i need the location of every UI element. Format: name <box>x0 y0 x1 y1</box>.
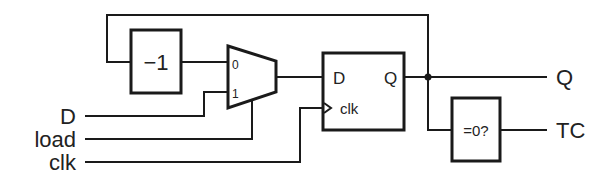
mux-input1-label: 1 <box>232 87 239 101</box>
flipflop-block: D Q clk <box>323 53 404 130</box>
counter-schematic: −1 0 1 D load clk D Q clk Q =0? TC <box>0 0 616 183</box>
flipflop-q-label: Q <box>384 69 397 88</box>
output-q-label: Q <box>556 65 573 90</box>
input-load-label: load <box>34 127 76 152</box>
decrement-block: −1 <box>131 30 181 93</box>
zero-detect-label: =0? <box>463 122 488 139</box>
mux-block: 0 1 <box>228 46 276 108</box>
input-d-wire <box>85 92 228 116</box>
flipflop-d-label: D <box>333 69 345 88</box>
decrement-label: −1 <box>143 50 168 75</box>
zero-detect-block: =0? <box>452 98 500 161</box>
output-tc-label: TC <box>556 118 585 143</box>
input-d-label: D <box>60 104 76 129</box>
input-clk-label: clk <box>49 150 77 175</box>
zero-detect-input-wire <box>428 77 452 130</box>
flipflop-clk-label: clk <box>340 100 359 117</box>
flipflop-box <box>323 53 404 130</box>
mux-input0-label: 0 <box>232 58 239 72</box>
